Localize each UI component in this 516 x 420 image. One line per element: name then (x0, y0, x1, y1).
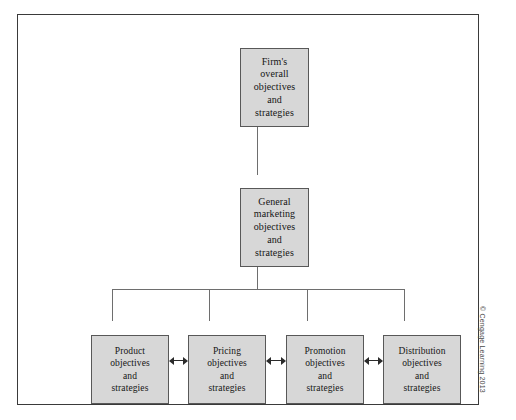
node-product-objectives: Product objectives and strategies (91, 335, 169, 404)
connector-bus-to-promotion (307, 289, 308, 321)
arrow-product-pricing (169, 356, 188, 365)
node-distribution-objectives-label: Distribution objectives and strategies (386, 345, 458, 394)
node-pricing-objectives: Pricing objectives and strategies (188, 335, 266, 404)
node-product-objectives-label: Product objectives and strategies (94, 345, 166, 394)
connector-bus-to-pricing (209, 289, 210, 321)
node-pricing-objectives-label: Pricing objectives and strategies (191, 345, 263, 394)
arrowhead-right-icon (183, 357, 188, 365)
arrowhead-right-icon (281, 357, 286, 365)
arrow-promotion-distribution (364, 356, 383, 365)
connector-bus-to-distribution (404, 289, 405, 321)
connector-bus-to-product (112, 289, 113, 321)
diagram-page: Firm's overall objectives and strategies… (0, 0, 516, 420)
diagram-frame: Firm's overall objectives and strategies… (17, 14, 479, 405)
arrowhead-right-icon (378, 357, 383, 365)
connector-mix-bus (112, 289, 404, 290)
node-firm-objectives-label: Firm's overall objectives and strategies (243, 56, 306, 120)
node-general-marketing-objectives-label: General marketing objectives and strateg… (243, 196, 306, 260)
copyright-notice: © Cengage Learning 2013 (479, 306, 486, 402)
arrow-pricing-promotion (266, 356, 286, 365)
node-distribution-objectives: Distribution objectives and strategies (383, 335, 461, 404)
node-firm-objectives: Firm's overall objectives and strategies (240, 48, 309, 127)
node-promotion-objectives-label: Promotion objectives and strategies (289, 345, 361, 394)
node-promotion-objectives: Promotion objectives and strategies (286, 335, 364, 404)
node-general-marketing-objectives: General marketing objectives and strateg… (240, 188, 309, 267)
